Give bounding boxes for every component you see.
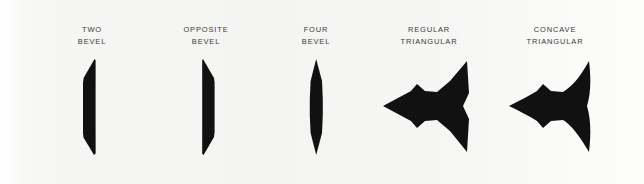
figure-plate: TWO BEVEL OPPOSITE BEVEL FOUR BEVEL xyxy=(0,0,644,184)
point-regular-triangular-icon xyxy=(381,59,477,155)
specimen-label-line2: BEVEL xyxy=(78,36,106,48)
blade-opposite-bevel-icon xyxy=(188,59,224,155)
specimen-label-line2: BEVEL xyxy=(183,36,228,48)
specimen-label-regular-triangular: REGULAR TRIANGULAR xyxy=(401,24,458,47)
point-concave-triangular-icon xyxy=(507,59,603,155)
specimen-row: TWO BEVEL OPPOSITE BEVEL FOUR BEVEL xyxy=(0,0,644,184)
specimen-label-line2: TRIANGULAR xyxy=(401,36,458,48)
specimen-regular-triangular: REGULAR TRIANGULAR xyxy=(374,0,484,155)
specimen-label-four-bevel: FOUR BEVEL xyxy=(302,24,330,47)
specimen-label-line2: BEVEL xyxy=(302,36,330,48)
specimen-label-line1: OPPOSITE xyxy=(183,25,228,34)
specimen-label-line1: CONCAVE xyxy=(534,25,576,34)
specimen-label-line2: TRIANGULAR xyxy=(527,36,584,48)
specimen-label-opposite-bevel: OPPOSITE BEVEL xyxy=(183,24,228,47)
blade-four-bevel-icon xyxy=(298,59,334,155)
specimen-opposite-bevel: OPPOSITE BEVEL xyxy=(154,0,258,155)
specimen-two-bevel: TWO BEVEL xyxy=(40,0,144,155)
specimen-label-line1: TWO xyxy=(82,25,102,34)
specimen-label-line1: REGULAR xyxy=(408,25,450,34)
specimen-label-line1: FOUR xyxy=(304,25,329,34)
specimen-four-bevel: FOUR BEVEL xyxy=(268,0,364,155)
specimen-label-concave-triangular: CONCAVE TRIANGULAR xyxy=(527,24,584,47)
blade-two-bevel-icon xyxy=(74,59,110,155)
specimen-label-two-bevel: TWO BEVEL xyxy=(78,24,106,47)
specimen-concave-triangular: CONCAVE TRIANGULAR xyxy=(494,0,616,155)
